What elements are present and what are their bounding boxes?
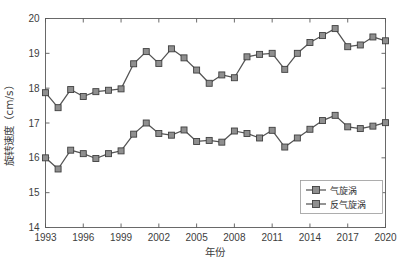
- data-point-marker: [181, 127, 187, 133]
- data-point-marker: [206, 80, 212, 86]
- data-point-marker: [231, 128, 237, 134]
- x-tick-label: 2011: [261, 232, 283, 243]
- data-point-marker: [80, 94, 86, 100]
- data-point-marker: [357, 126, 363, 132]
- data-point-marker: [194, 67, 200, 73]
- data-point-marker: [307, 40, 313, 46]
- data-point-marker: [80, 151, 86, 157]
- legend-marker-anticyclonic: [313, 201, 320, 208]
- x-tick-label: 2008: [223, 232, 246, 243]
- data-point-marker: [206, 137, 212, 143]
- data-point-marker: [244, 130, 250, 136]
- data-point-marker: [307, 126, 313, 132]
- y-tick-label: 18: [28, 83, 40, 94]
- y-tick-label: 15: [28, 187, 40, 198]
- data-point-marker: [55, 105, 61, 111]
- data-point-marker: [332, 112, 338, 118]
- data-point-marker: [282, 144, 288, 150]
- data-point-marker: [168, 132, 174, 138]
- data-point-marker: [357, 42, 363, 48]
- legend-entry-cyclonic[interactable]: 气旋涡: [306, 185, 357, 196]
- data-point-marker: [118, 148, 124, 154]
- series-anticyclonic: [43, 26, 389, 111]
- data-point-marker: [231, 75, 237, 81]
- data-point-marker: [118, 86, 124, 92]
- data-point-marker: [131, 131, 137, 137]
- data-point-marker: [257, 51, 263, 57]
- data-point-marker: [194, 138, 200, 144]
- chart-legend[interactable]: 气旋涡 反气旋涡: [301, 181, 383, 214]
- x-tick-label: 2020: [374, 232, 397, 243]
- data-point-marker: [244, 54, 250, 60]
- data-point-marker: [269, 127, 275, 133]
- data-point-marker: [168, 46, 174, 52]
- data-point-marker: [181, 55, 187, 61]
- data-point-marker: [156, 130, 162, 136]
- series-line: [46, 29, 386, 108]
- x-tick-label: 1996: [72, 232, 95, 243]
- data-point-marker: [383, 38, 389, 44]
- data-point-marker: [219, 72, 225, 78]
- legend-label-cyclonic: 气旋涡: [330, 185, 357, 196]
- legend-marker-cyclonic: [313, 187, 320, 194]
- data-point-marker: [219, 139, 225, 145]
- legend-entry-anticyclonic[interactable]: 反气旋涡: [306, 199, 366, 210]
- data-point-marker: [269, 50, 275, 56]
- y-axis-title: 旋转速度（cm/s）: [3, 80, 15, 165]
- x-tick-label: 2017: [337, 232, 360, 243]
- data-point-marker: [68, 87, 74, 93]
- data-point-marker: [320, 33, 326, 39]
- x-tick-label: 2002: [148, 232, 171, 243]
- data-point-marker: [68, 147, 74, 153]
- data-point-marker: [320, 118, 326, 124]
- data-point-marker: [294, 135, 300, 141]
- data-point-marker: [143, 120, 149, 126]
- data-point-marker: [93, 156, 99, 162]
- data-series-group: [43, 26, 389, 172]
- legend-label-anticyclonic: 反气旋涡: [330, 199, 366, 210]
- data-point-marker: [370, 123, 376, 129]
- x-axis-title: 年份: [205, 246, 226, 258]
- y-tick-label: 16: [28, 152, 40, 163]
- data-point-marker: [93, 89, 99, 95]
- x-tick-label: 2005: [185, 232, 208, 243]
- data-point-marker: [156, 60, 162, 66]
- data-point-marker: [131, 61, 137, 67]
- data-point-marker: [105, 87, 111, 93]
- y-tick-label: 19: [28, 48, 40, 59]
- chart-figure: 14151617181920 1993199619992002200520082…: [0, 0, 402, 264]
- data-point-marker: [294, 50, 300, 56]
- eddy-rotation-speed-line-chart: 14151617181920 1993199619992002200520082…: [0, 0, 402, 264]
- x-tick-label: 1999: [110, 232, 133, 243]
- data-point-marker: [105, 151, 111, 157]
- data-point-marker: [282, 66, 288, 72]
- x-tick-label: 2014: [299, 232, 322, 243]
- data-point-marker: [55, 166, 61, 172]
- data-point-marker: [345, 124, 351, 130]
- data-point-marker: [383, 120, 389, 126]
- y-tick-label: 20: [28, 13, 40, 24]
- data-point-marker: [43, 90, 49, 96]
- data-point-marker: [43, 155, 49, 161]
- data-point-marker: [257, 135, 263, 141]
- y-tick-label: 17: [28, 118, 40, 129]
- data-point-marker: [345, 44, 351, 50]
- x-tick-label: 1993: [34, 232, 57, 243]
- data-point-marker: [332, 26, 338, 32]
- data-point-marker: [370, 34, 376, 40]
- series-cyclonic: [43, 112, 389, 172]
- data-point-marker: [143, 49, 149, 55]
